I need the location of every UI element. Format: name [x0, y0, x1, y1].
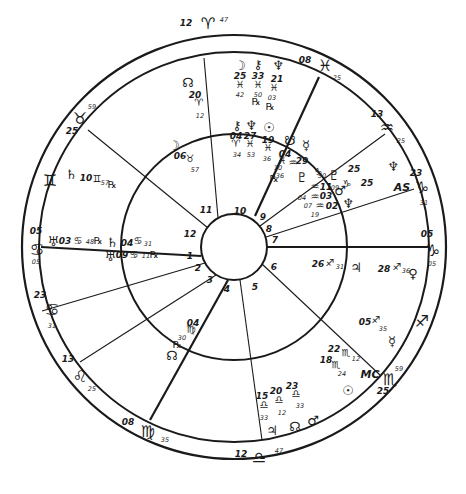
- capricorn-b-cusp-minutes: 05: [428, 260, 436, 268]
- mercury-position-min: 35: [379, 325, 387, 333]
- scorpio-cusp-degree: 25: [377, 386, 390, 396]
- house-number-2: 2: [195, 263, 201, 273]
- south-node-inner-icon: ☋: [284, 133, 296, 148]
- north-node-position-glyph: ♈: [195, 97, 204, 108]
- sun-inner-position-min: 36: [263, 155, 271, 163]
- aquarius-position-glyph: ♒: [316, 200, 325, 211]
- taurus-cusp-degree: 25: [66, 126, 79, 136]
- house-number-12: 12: [184, 229, 197, 239]
- scorpio-position-glyph: ♏: [342, 347, 351, 358]
- uranus-position-glyph: ℞: [94, 235, 103, 246]
- jupiter-inner-position-glyph: ♐: [326, 257, 335, 268]
- capricorn-a-cusp-minutes: 31: [420, 199, 428, 207]
- mercury-inner-icon: ☿: [302, 138, 310, 153]
- chiron-position-glyph: ♓: [254, 79, 263, 90]
- mercury-position-deg: 05: [359, 317, 372, 327]
- cancer-b-cusp-minutes: 05: [32, 258, 40, 266]
- neptune-inner-b-icon: ♆: [342, 196, 354, 211]
- neptune-position-glyph: ♓: [270, 82, 279, 93]
- capricorn-a-sign-icon: ♑: [415, 178, 429, 197]
- neptune-inner-position-glyph: ♓: [246, 138, 255, 149]
- leo-cusp-degree: 13: [62, 354, 75, 364]
- jupiter-inner-position-deg: 26: [312, 259, 325, 269]
- aquarius-cusp-degree: 13: [371, 109, 384, 119]
- house-number-9: 9: [260, 212, 266, 222]
- libra-position-glyph: ♎: [275, 394, 284, 405]
- uranus-inner-position-deg: 09: [116, 250, 129, 260]
- pluto-inner-icon: ♇: [296, 170, 308, 185]
- house-number-11: 11: [200, 205, 213, 215]
- sun-inner-position-glyph: ♓: [264, 142, 273, 153]
- cancer-a-sign-icon: ♋: [45, 300, 59, 319]
- cusp-line-house-4: [150, 280, 228, 420]
- leo-sign-icon: ♌: [73, 367, 87, 386]
- pisces-cusp-degree: 08: [299, 55, 312, 65]
- uranus-inner-position-glyph: ♋: [130, 249, 139, 260]
- house-number-6: 6: [271, 262, 277, 272]
- scorpio-position-min: 12: [352, 355, 360, 363]
- north-node-position-min: 12: [196, 112, 204, 120]
- moon-inner-position-glyph: ♉: [186, 153, 195, 164]
- jupiter-inner-position-min: 31: [336, 263, 344, 271]
- jupiter-b-icon: ♃: [266, 423, 278, 438]
- moon-position-glyph: ♓: [236, 79, 245, 90]
- south-node-inner-position-glyph: ℞: [270, 173, 279, 184]
- scorpio-position-min: 24: [338, 370, 346, 378]
- libra-position-min: 33: [296, 402, 304, 410]
- pluto-icon: ♇: [328, 168, 340, 183]
- aries-cusp-minutes: 47: [220, 16, 229, 24]
- taurus-cusp-minutes: 59: [88, 103, 96, 111]
- chiron-icon: ⚷: [253, 57, 263, 72]
- taurus-sign-icon: ♉: [73, 109, 87, 128]
- saturn-inner-position-min: 31: [144, 240, 152, 248]
- aquarius-position-min: 19: [311, 211, 319, 219]
- aries-cusp-degree: 12: [180, 18, 193, 28]
- saturn-inner-icon: ♄: [106, 235, 118, 250]
- jupiter-inner-icon: ♃: [350, 260, 362, 275]
- cancer-a-cusp-minutes: 31: [48, 322, 56, 330]
- north-node-icon: ☊: [182, 75, 194, 90]
- house-number-7: 7: [272, 235, 279, 245]
- capricorn-b-sign-icon: ♑: [426, 241, 440, 260]
- scorpio-position-deg: 22: [328, 344, 341, 354]
- saturn-icon: ♄: [65, 167, 77, 182]
- virgo-sign-icon: ♍: [141, 422, 155, 441]
- house-number-1: 1: [187, 251, 193, 261]
- capricorn-b-cusp-degree: 05: [421, 229, 434, 239]
- leo-cusp-minutes: 25: [88, 385, 96, 393]
- cancer-b-sign-icon: ♋: [30, 240, 44, 259]
- sun-icon: ☉: [342, 383, 354, 398]
- libra-position-glyph: ♎: [292, 388, 301, 399]
- neptune-icon: ♆: [272, 58, 284, 73]
- mercury-inner-position-deg: 29: [296, 156, 309, 166]
- libra-position-glyph: ♎: [260, 399, 269, 410]
- saturn-inner-position-glyph: ♋: [134, 235, 143, 246]
- sun-inner-icon: ☉: [263, 120, 275, 135]
- moon-inner-position-min: 57: [191, 166, 200, 174]
- libra-sign-icon: ♎: [252, 448, 266, 467]
- house-number-3: 3: [207, 275, 213, 285]
- uranus-position-glyph: ♋: [74, 235, 83, 246]
- venus-position-deg: 28: [378, 264, 391, 274]
- aquarius-position-deg: 11: [320, 182, 333, 192]
- midheaven-icon: MC: [360, 368, 379, 381]
- venus-position-glyph: ♐: [393, 261, 402, 272]
- north-node-inner-position-glyph: ♍: [187, 324, 196, 335]
- north-node-b-icon: ☊: [289, 419, 301, 434]
- scorpio-position-deg: 18: [320, 355, 333, 365]
- libra-position-min: 33: [260, 414, 268, 422]
- house-number-5: 5: [252, 282, 258, 292]
- moon-inner-position-deg: 06: [174, 151, 187, 161]
- south-node-inner-position-min: 10: [274, 164, 282, 172]
- chiron-position-glyph: ℞: [252, 96, 261, 107]
- libra-cusp-degree: 12: [235, 449, 248, 459]
- neptune-b-icon: ♆: [387, 159, 399, 174]
- chiron-inner-position-min: 34: [233, 151, 241, 159]
- moon-position-min: 42: [236, 91, 244, 99]
- sagittarius-sign-icon: ♐: [415, 312, 429, 331]
- pisces-cusp-minutes: 25: [333, 74, 341, 82]
- neptune-position-glyph: ℞: [266, 101, 275, 112]
- cancer-b-cusp-degree: 05: [30, 226, 43, 236]
- house-number-4: 4: [223, 284, 230, 294]
- scorpio-cusp-minutes: 59: [395, 365, 403, 373]
